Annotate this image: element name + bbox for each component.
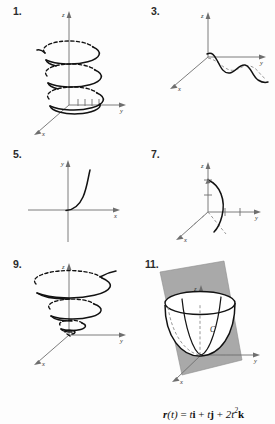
equation-of-t: (t) xyxy=(167,408,177,420)
x-axis-label: x xyxy=(113,212,117,219)
x-axis-arrowhead xyxy=(176,235,184,240)
converging-spiral-3d-graph: z y x xyxy=(0,255,138,390)
x-axis-arrowhead xyxy=(34,130,42,135)
z-axis-arrowhead xyxy=(67,263,72,270)
spiral-curve xyxy=(35,271,116,336)
equation-term2-unit: j xyxy=(210,408,214,420)
problem-11: 11. z y x xyxy=(138,255,275,390)
helix-3d-graph: z y x xyxy=(0,0,138,140)
z-axis-arrowhead xyxy=(206,12,211,19)
y-axis-arrowhead xyxy=(66,160,71,167)
problem-3: 3. z y x xyxy=(138,0,275,140)
y-axis-label: y xyxy=(119,337,123,344)
y-axis-label: y xyxy=(254,214,258,221)
helix-curve xyxy=(37,41,103,114)
z-axis-label: z xyxy=(200,12,204,19)
x-axis xyxy=(38,335,69,362)
equation-term3-unit: k xyxy=(238,408,244,420)
z-axis-arrowhead xyxy=(67,11,72,18)
wavy-curve xyxy=(207,53,268,82)
x-axis-label: x xyxy=(179,378,183,385)
x-axis-label: x xyxy=(183,236,187,243)
y-axis-label: y xyxy=(253,357,257,364)
problem-5: 5. y x xyxy=(0,140,138,258)
dashed-helper-2 xyxy=(208,212,226,234)
x-axis xyxy=(174,57,208,86)
wavy-curve-3d-graph: z y x xyxy=(138,0,275,140)
equation-plus-1: + xyxy=(198,408,204,420)
equation-equals: = xyxy=(180,408,186,420)
paraboloid-plane-3d-graph: z y x C xyxy=(138,255,275,390)
textbook-figure-page: 1. z y x xyxy=(0,0,275,424)
z-axis-label: z xyxy=(61,263,65,270)
x-axis-label: x xyxy=(41,130,45,137)
problem-9: 9. z y x xyxy=(0,255,138,390)
problem-1: 1. z y x xyxy=(0,0,138,140)
y-axis-label: y xyxy=(259,59,263,66)
z-axis-arrowhead xyxy=(206,162,211,169)
arc-curve xyxy=(208,180,223,232)
vector-function-equation: r(t) = ti + tj + 2t2k xyxy=(163,406,244,420)
y-axis-label: y xyxy=(119,107,123,114)
x-axis-arrowhead xyxy=(34,360,42,365)
problem-7: 7. z y x xyxy=(138,140,275,258)
z-axis-label: z xyxy=(200,162,204,169)
arc-3d-graph: z y x xyxy=(138,140,275,258)
equation-term1-unit: i xyxy=(192,408,195,420)
equation-term3-coef: 2t xyxy=(226,408,235,420)
x-axis-label: x xyxy=(41,360,45,367)
exponential-2d-graph: y x xyxy=(0,140,138,258)
exponential-curve xyxy=(66,170,90,211)
x-axis-label: x xyxy=(177,85,181,92)
x-axis-arrowhead xyxy=(170,84,178,89)
z-axis-label: z xyxy=(61,11,65,18)
x-axis-arrowhead xyxy=(172,377,180,382)
equation-plus-2: + xyxy=(217,408,223,420)
y-axis-label: y xyxy=(60,160,64,167)
